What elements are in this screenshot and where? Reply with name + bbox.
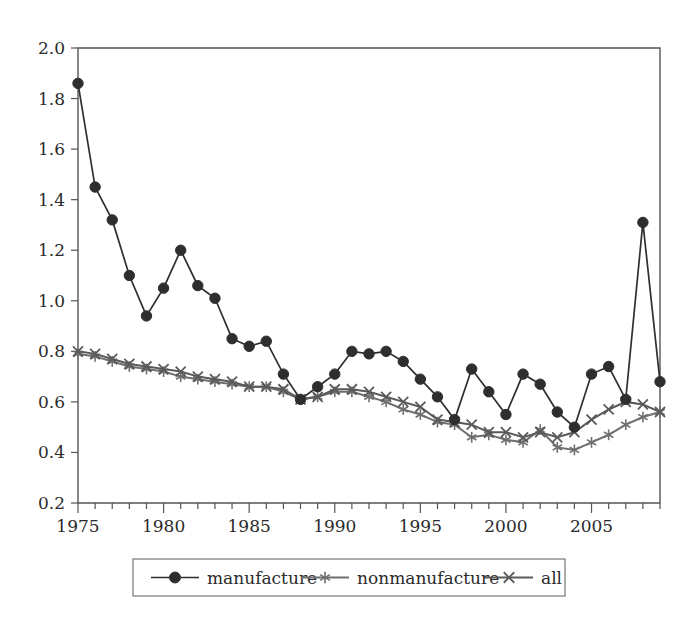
x-tick-label: 1975 xyxy=(56,516,99,536)
circle-marker-icon xyxy=(552,407,562,417)
circle-marker-icon xyxy=(467,364,477,374)
circle-marker-icon xyxy=(261,336,271,346)
x-tick-label: 2000 xyxy=(484,516,527,536)
star-marker-icon xyxy=(621,419,630,430)
circle-marker-icon xyxy=(569,422,579,432)
circle-marker-icon xyxy=(227,333,237,343)
circle-marker-icon xyxy=(518,369,528,379)
circle-marker-icon xyxy=(73,78,83,88)
y-tick-label: 0.4 xyxy=(38,442,65,462)
y-tick-label: 1.0 xyxy=(38,291,65,311)
circle-marker-icon xyxy=(210,293,220,303)
legend-label-nonmanufacture: nonmanufacture xyxy=(357,568,499,588)
star-marker-icon xyxy=(604,429,613,440)
series-layer xyxy=(73,78,665,455)
circle-marker-icon xyxy=(449,414,459,424)
chart-legend: manufacturenonmanufactureall xyxy=(133,559,565,596)
circle-marker-icon xyxy=(621,394,631,404)
circle-marker-icon xyxy=(484,387,494,397)
y-tick-label: 1.4 xyxy=(38,190,65,210)
legend-label-all: all xyxy=(541,568,562,588)
x-tick-label: 1985 xyxy=(228,516,271,536)
circle-marker-icon xyxy=(158,283,168,293)
x-tick-label: 2005 xyxy=(570,516,613,536)
circle-marker-icon xyxy=(141,311,151,321)
series-manufacture xyxy=(73,78,665,432)
circle-marker-icon xyxy=(90,182,100,192)
circle-marker-icon xyxy=(278,369,288,379)
series-nonmanufacture xyxy=(73,348,664,455)
y-tick-label: 0.8 xyxy=(38,341,65,361)
y-tick-label: 1.8 xyxy=(38,89,65,109)
circle-marker-icon xyxy=(432,392,442,402)
circle-marker-icon xyxy=(244,341,254,351)
circle-marker-icon xyxy=(364,349,374,359)
circle-marker-icon xyxy=(398,356,408,366)
x-axis-tick-labels: 1975198019851990199520002005 xyxy=(56,516,613,536)
circle-marker-icon xyxy=(347,346,357,356)
cross-marker-icon xyxy=(604,404,614,414)
circle-marker-icon xyxy=(586,369,596,379)
chart-figure: 0.20.40.60.81.01.21.41.61.82.0 197519801… xyxy=(0,0,700,633)
y-tick-label: 0.6 xyxy=(38,392,65,412)
legend-label-manufacture: manufacture xyxy=(207,568,317,588)
circle-marker-icon xyxy=(170,572,181,583)
circle-marker-icon xyxy=(330,369,340,379)
x-tick-label: 1995 xyxy=(399,516,442,536)
circle-marker-icon xyxy=(501,409,511,419)
circle-marker-icon xyxy=(655,376,665,386)
circle-marker-icon xyxy=(107,215,117,225)
x-axis-tick-marks xyxy=(78,503,660,513)
circle-marker-icon xyxy=(638,217,648,227)
y-tick-label: 2.0 xyxy=(38,38,65,58)
y-axis-tick-marks xyxy=(71,48,78,503)
circle-marker-icon xyxy=(312,382,322,392)
circle-marker-icon xyxy=(535,379,545,389)
x-tick-label: 1990 xyxy=(313,516,356,536)
circle-marker-icon xyxy=(381,346,391,356)
y-tick-label: 0.2 xyxy=(38,493,65,513)
y-axis-tick-labels: 0.20.40.60.81.01.21.41.61.82.0 xyxy=(38,38,65,513)
y-tick-label: 1.2 xyxy=(38,240,65,260)
circle-marker-icon xyxy=(193,280,203,290)
star-marker-icon xyxy=(587,437,596,448)
cross-marker-icon xyxy=(587,415,597,425)
x-tick-label: 1980 xyxy=(142,516,185,536)
circle-marker-icon xyxy=(603,361,613,371)
line-chart: 0.20.40.60.81.01.21.41.61.82.0 197519801… xyxy=(0,0,700,633)
circle-marker-icon xyxy=(124,270,134,280)
circle-marker-icon xyxy=(415,374,425,384)
circle-marker-icon xyxy=(295,394,305,404)
series-line-manufacture xyxy=(78,83,660,427)
y-tick-label: 1.6 xyxy=(38,139,65,159)
circle-marker-icon xyxy=(176,245,186,255)
